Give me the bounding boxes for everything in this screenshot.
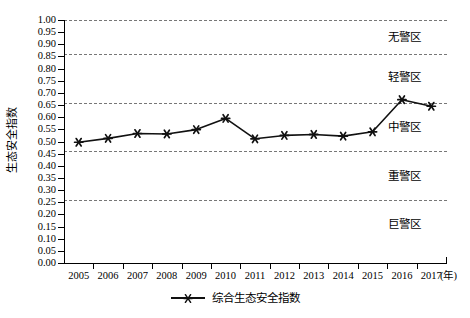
y-tick-label: 0.00 (38, 258, 56, 268)
x-axis-end-tick (446, 257, 447, 264)
y-tick-label: 0.90 (38, 39, 56, 49)
x-tick (387, 263, 388, 269)
x-tick-label: 2009 (186, 270, 207, 282)
x-tick-label: 2015 (362, 270, 383, 282)
x-tick (93, 263, 94, 269)
y-tick-label: 0.75 (38, 76, 56, 86)
y-tick-label: 0.50 (38, 137, 56, 147)
y-tick-label: 1.00 (38, 15, 56, 25)
data-point-marker-asterisk-icon (427, 103, 435, 110)
data-point-marker-asterisk-icon (192, 126, 200, 133)
x-tick-label: 2011 (245, 270, 266, 282)
x-tick (152, 263, 153, 269)
legend-label: 综合生态安全指数 (212, 292, 300, 304)
y-tick-label: 0.65 (38, 100, 56, 110)
x-tick (270, 263, 271, 269)
data-point-marker-asterisk-icon (75, 139, 83, 146)
legend-line-sample (171, 293, 205, 303)
y-tick-label: 0.15 (38, 222, 56, 232)
y-tick-label: 0.55 (38, 124, 56, 134)
y-axis-labels: 1.000.950.900.850.800.750.700.650.600.55… (0, 0, 56, 318)
y-tick-label: 0.30 (38, 185, 56, 195)
y-tick-label: 0.35 (38, 173, 56, 183)
x-tick (328, 263, 329, 269)
x-tick-label: 2010 (215, 270, 236, 282)
y-tick-label: 0.20 (38, 209, 56, 219)
x-tick (358, 263, 359, 269)
x-tick-label: 2012 (274, 270, 295, 282)
x-tick-label: 2007 (127, 270, 148, 282)
x-tick-label: 2016 (391, 270, 412, 282)
y-tick-label: 0.05 (38, 246, 56, 256)
x-tick (182, 263, 183, 269)
x-axis-unit: (年) (440, 270, 457, 282)
x-tick (417, 263, 418, 269)
data-point-marker-asterisk-icon (280, 132, 288, 139)
data-point-marker-asterisk-icon (310, 131, 318, 138)
y-tick-label: 0.80 (38, 64, 56, 74)
x-tick (123, 263, 124, 269)
series-line (79, 100, 432, 143)
x-tick-label: 2014 (333, 270, 354, 282)
plot-area (64, 20, 446, 263)
y-tick-label: 0.45 (38, 149, 56, 159)
ecological-security-index-chart: 生态安全指数 1.000.950.900.850.800.750.700.650… (0, 0, 470, 318)
x-tick (299, 263, 300, 269)
y-tick-label: 0.95 (38, 27, 56, 37)
y-tick-label: 0.60 (38, 112, 56, 122)
x-tick-label: 2006 (98, 270, 119, 282)
y-tick-label: 0.40 (38, 161, 56, 171)
x-axis-line (64, 263, 447, 264)
x-tick-label: 2005 (68, 270, 89, 282)
x-tick-label: 2017 (421, 270, 442, 282)
legend: 综合生态安全指数 (0, 292, 470, 304)
legend-marker-asterisk-icon (182, 293, 194, 304)
data-point-marker-asterisk-icon (163, 130, 171, 137)
y-tick-label: 0.10 (38, 234, 56, 244)
x-tick (211, 263, 212, 269)
y-tick-label: 0.70 (38, 88, 56, 98)
x-tick (240, 263, 241, 269)
y-tick-label: 0.85 (38, 51, 56, 61)
data-series-comprehensive-index (64, 20, 446, 263)
data-point-marker-asterisk-icon (104, 135, 112, 142)
data-point-marker-asterisk-icon (133, 130, 141, 137)
x-tick-label: 2008 (156, 270, 177, 282)
data-point-marker-asterisk-icon (339, 132, 347, 139)
y-tick-label: 0.25 (38, 197, 56, 207)
x-tick-label: 2013 (303, 270, 324, 282)
